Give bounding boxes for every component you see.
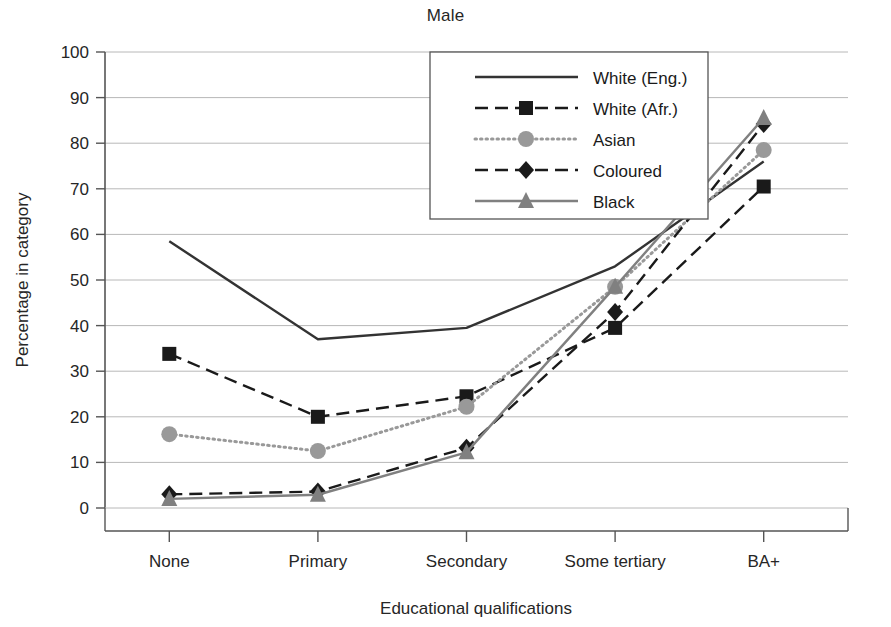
y-axis-ticks-group: 0102030405060708090100 bbox=[61, 43, 105, 518]
data-point-marker bbox=[459, 399, 475, 415]
legend-label: Black bbox=[593, 193, 635, 212]
data-point-marker bbox=[607, 303, 623, 321]
x-tick-label: Primary bbox=[289, 552, 348, 571]
data-point-marker bbox=[310, 443, 326, 459]
x-tick-label: Some tertiary bbox=[565, 552, 667, 571]
y-tick-label: 40 bbox=[70, 317, 89, 336]
data-point-marker bbox=[311, 410, 325, 424]
y-axis-title: Percentage in category bbox=[13, 192, 32, 367]
line-chart-plot: 0102030405060708090100 NonePrimarySecond… bbox=[0, 0, 891, 627]
y-tick-label: 0 bbox=[80, 499, 89, 518]
data-point-marker bbox=[162, 347, 176, 361]
y-tick-label: 30 bbox=[70, 362, 89, 381]
data-point-marker bbox=[756, 109, 772, 125]
legend-label: Asian bbox=[593, 131, 636, 150]
y-tick-label: 80 bbox=[70, 134, 89, 153]
x-axis-ticks-group: NonePrimarySecondarySome tertiaryBA+ bbox=[149, 531, 780, 571]
data-point-marker bbox=[608, 321, 622, 335]
y-tick-label: 60 bbox=[70, 225, 89, 244]
legend-marker-sample bbox=[518, 131, 534, 147]
y-tick-label: 10 bbox=[70, 453, 89, 472]
data-point-marker bbox=[161, 426, 177, 442]
legend-marker-sample bbox=[519, 101, 533, 115]
legend-label: White (Eng.) bbox=[593, 69, 687, 88]
chart-container: Male 0102030405060708090100 NonePrimaryS… bbox=[0, 0, 891, 627]
legend-label: White (Afr.) bbox=[593, 100, 678, 119]
legend-label: Coloured bbox=[593, 162, 662, 181]
x-tick-label: Secondary bbox=[426, 552, 508, 571]
chart-legend: White (Eng.)White (Afr.)AsianColouredBla… bbox=[430, 52, 708, 219]
data-point-marker bbox=[756, 142, 772, 158]
y-tick-label: 90 bbox=[70, 89, 89, 108]
x-tick-label: None bbox=[149, 552, 190, 571]
x-tick-label: BA+ bbox=[747, 552, 780, 571]
data-point-marker bbox=[757, 180, 771, 194]
x-axis-title: Educational qualifications bbox=[380, 599, 572, 618]
y-tick-label: 70 bbox=[70, 180, 89, 199]
y-tick-label: 20 bbox=[70, 408, 89, 427]
y-tick-label: 50 bbox=[70, 271, 89, 290]
y-tick-label: 100 bbox=[61, 43, 89, 62]
